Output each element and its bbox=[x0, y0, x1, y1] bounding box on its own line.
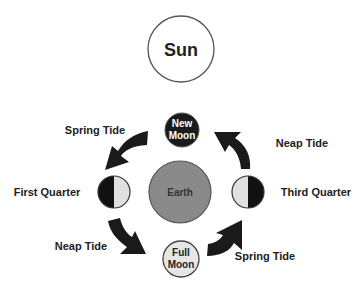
first-quarter-moon: First Quarter bbox=[14, 176, 130, 208]
new-moon: New Moon bbox=[165, 113, 199, 147]
new-moon-label-line2: Moon bbox=[169, 130, 196, 141]
arrow-top-left: Spring Tide bbox=[65, 124, 148, 170]
curved-arrow-icon bbox=[105, 131, 148, 170]
curved-arrow-icon bbox=[214, 132, 250, 169]
first-quarter-light-half bbox=[114, 176, 130, 208]
sun: Sun bbox=[148, 16, 214, 82]
full-moon-label-line1: Full bbox=[172, 247, 190, 258]
moon-tide-diagram: Sun New Moon Earth First Quarter Third Q… bbox=[0, 0, 363, 294]
earth: Earth bbox=[149, 161, 211, 223]
third-quarter-label: Third Quarter bbox=[281, 186, 352, 198]
third-quarter-moon: Third Quarter bbox=[232, 176, 352, 208]
arrow-top-right: Neap Tide bbox=[214, 132, 328, 169]
tide-label-top-right: Neap Tide bbox=[276, 137, 328, 149]
full-moon-label-line2: Moon bbox=[168, 259, 195, 270]
third-quarter-light-half bbox=[232, 176, 248, 208]
tide-label-bottom-right: Spring Tide bbox=[235, 250, 295, 262]
first-quarter-label: First Quarter bbox=[14, 186, 81, 198]
first-quarter-dark-half bbox=[98, 176, 114, 208]
tide-label-bottom-left: Neap Tide bbox=[55, 240, 107, 252]
third-quarter-dark-half bbox=[248, 176, 264, 208]
full-moon: Full Moon bbox=[163, 241, 199, 277]
earth-label: Earth bbox=[167, 187, 193, 198]
new-moon-label-line1: New bbox=[172, 118, 193, 129]
arrow-bottom-right: Spring Tide bbox=[207, 220, 295, 262]
arrow-bottom-left: Neap Tide bbox=[55, 218, 146, 254]
sun-label: Sun bbox=[164, 40, 198, 60]
tide-label-top-left: Spring Tide bbox=[65, 124, 125, 136]
curved-arrow-icon bbox=[108, 218, 146, 254]
